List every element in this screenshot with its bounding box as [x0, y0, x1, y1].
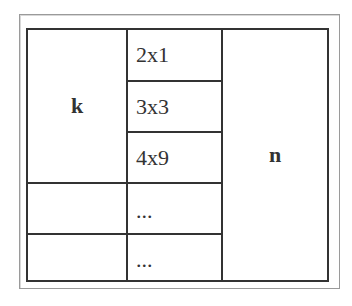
ellipsis-cell: ...: [127, 183, 222, 234]
right-label: n: [269, 142, 281, 167]
empty-left-cell: [27, 183, 127, 234]
entry-label: 2x1: [136, 42, 169, 67]
entry-label: 4x9: [136, 145, 169, 170]
entry-label: 3x3: [136, 94, 169, 119]
entry-cell: 4x9: [127, 132, 222, 183]
table-row: k 2x1 n: [27, 29, 328, 81]
right-label-cell: n: [222, 29, 328, 281]
empty-left-cell: [27, 234, 127, 281]
left-label-cell: k: [27, 29, 127, 183]
ellipsis-label: ...: [136, 198, 153, 223]
entry-cell: 3x3: [127, 81, 222, 132]
ellipsis-label: ...: [136, 247, 153, 272]
entry-cell: 2x1: [127, 29, 222, 81]
left-label: k: [71, 93, 83, 118]
structure-table: k 2x1 n 3x3 4x9 ...: [26, 28, 329, 282]
ellipsis-cell: ...: [127, 234, 222, 281]
